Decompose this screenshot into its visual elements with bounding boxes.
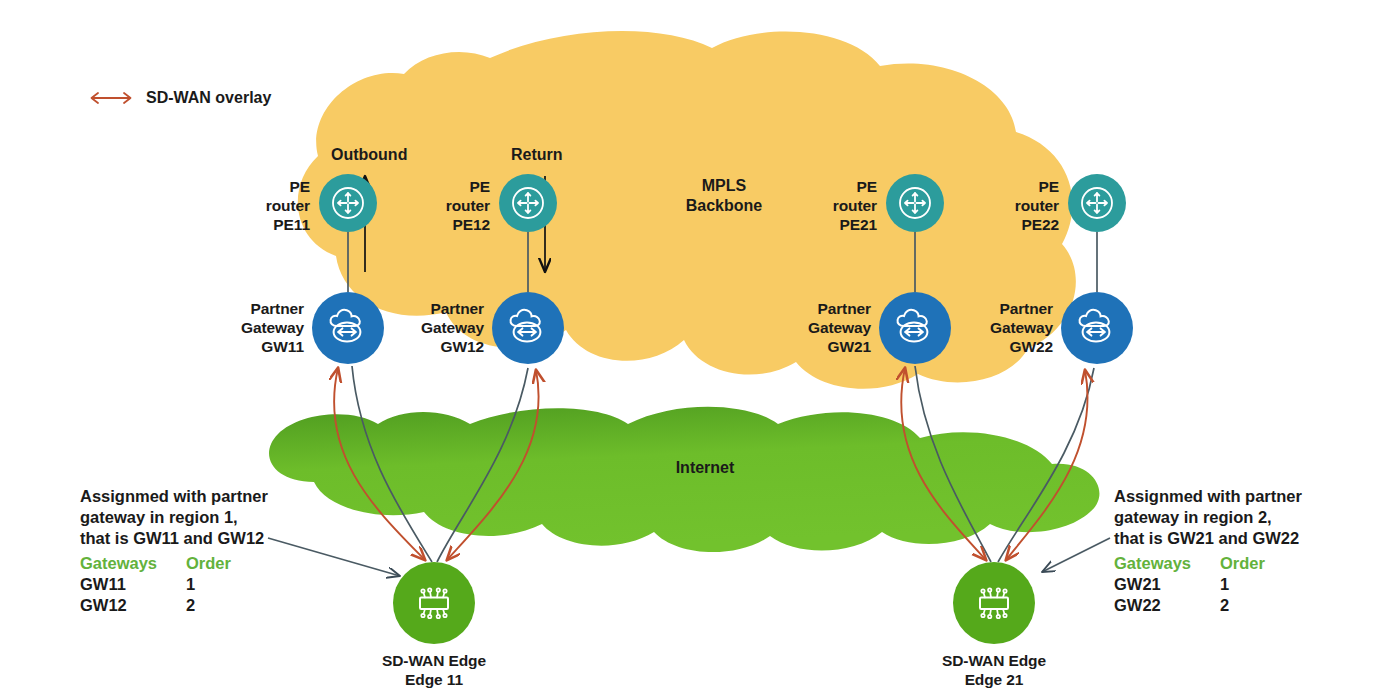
order-header: Order	[186, 554, 231, 574]
node-gw12[interactable]	[492, 292, 564, 364]
double-arrow-icon	[86, 90, 136, 106]
region-1-annotation: Assignmed with partner gateway in region…	[80, 486, 340, 616]
gateway-order: 2	[1220, 595, 1265, 616]
gateway-name: GW21	[1114, 574, 1220, 595]
node-gw11-label: Partner Gateway GW11	[188, 300, 304, 357]
gateways-header: Gateways	[80, 554, 186, 574]
region-2-annotation: Assignmed with partner gateway in region…	[1114, 486, 1374, 616]
node-pe22-label: PE router PE22	[955, 178, 1059, 235]
cloud-gateway-icon	[505, 306, 551, 350]
router-icon	[329, 184, 367, 222]
node-gw12-label: Partner Gateway GW12	[368, 300, 484, 357]
sdwan-edge-chip-icon	[409, 578, 459, 628]
node-gw21-label: Partner Gateway GW21	[755, 300, 871, 357]
table-row: GW12 2	[80, 595, 231, 616]
region-1-gateway-table: Gateways Order GW11 1 GW12 2	[80, 554, 231, 615]
region-2-annotation-text: Assignmed with partner gateway in region…	[1114, 486, 1374, 548]
sdwan-edge-chip-icon	[969, 578, 1019, 628]
order-header: Order	[1220, 554, 1265, 574]
gateway-name: GW11	[80, 574, 186, 595]
table-row: GW11 1	[80, 574, 231, 595]
node-edge11[interactable]	[393, 562, 475, 644]
node-gw22-label: Partner Gateway GW22	[937, 300, 1053, 357]
node-gw22[interactable]	[1061, 292, 1133, 364]
table-row: GW21 1	[1114, 574, 1265, 595]
gateway-name: GW12	[80, 595, 186, 616]
return-flow-label: Return	[511, 146, 563, 164]
node-pe21[interactable]	[886, 174, 944, 232]
outbound-flow-label: Outbound	[331, 146, 407, 164]
node-pe22[interactable]	[1068, 174, 1126, 232]
node-pe12[interactable]	[499, 174, 557, 232]
gateway-order: 2	[186, 595, 231, 616]
node-pe12-label: PE router PE12	[386, 178, 490, 235]
legend-label: SD-WAN overlay	[146, 89, 271, 107]
node-pe11-label: PE router PE11	[206, 178, 310, 235]
router-icon	[896, 184, 934, 222]
node-pe11[interactable]	[319, 174, 377, 232]
router-icon	[509, 184, 547, 222]
pointer-region2	[1042, 538, 1110, 572]
legend: SD-WAN overlay	[86, 89, 271, 107]
cloud-gateway-icon	[892, 306, 938, 350]
table-header-row: Gateways Order	[1114, 554, 1265, 574]
node-pe21-label: PE router PE21	[773, 178, 877, 235]
gateways-header: Gateways	[1114, 554, 1220, 574]
table-header-row: Gateways Order	[80, 554, 231, 574]
cloud-gateway-icon	[325, 306, 371, 350]
internet-label: Internet	[620, 458, 790, 478]
cloud-gateway-icon	[1074, 306, 1120, 350]
node-edge11-label: SD-WAN Edge Edge 11	[344, 652, 524, 690]
region-1-annotation-text: Assignmed with partner gateway in region…	[80, 486, 340, 548]
gateway-order: 1	[186, 574, 231, 595]
region-2-gateway-table: Gateways Order GW21 1 GW22 2	[1114, 554, 1265, 615]
table-row: GW22 2	[1114, 595, 1265, 616]
network-diagram: SD-WAN overlay MPLS Backbone Internet Ou…	[0, 0, 1380, 697]
node-edge21-label: SD-WAN Edge Edge 21	[904, 652, 1084, 690]
gateway-name: GW22	[1114, 595, 1220, 616]
node-edge21[interactable]	[953, 562, 1035, 644]
router-icon	[1078, 184, 1116, 222]
gateway-order: 1	[1220, 574, 1265, 595]
